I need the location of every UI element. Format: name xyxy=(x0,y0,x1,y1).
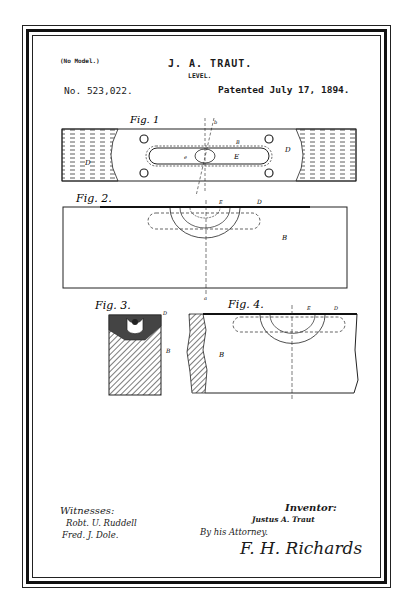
svg-text:B: B xyxy=(235,139,240,145)
witness-signature-2: Fred. J. Dole. xyxy=(62,530,118,540)
patent-drawings: D D E B e b Fig. 1 B D E a Fig. 2. B D F… xyxy=(0,0,415,614)
svg-text:B: B xyxy=(165,347,171,354)
inventor-label: Inventor: xyxy=(285,502,337,513)
fig3-label: Fig. 3. xyxy=(94,299,131,312)
svg-text:B: B xyxy=(281,234,287,242)
svg-text:E: E xyxy=(306,305,311,311)
svg-text:E: E xyxy=(218,199,223,205)
svg-text:D: D xyxy=(333,305,338,311)
svg-text:E: E xyxy=(233,153,239,161)
figure-3: B D xyxy=(109,310,171,395)
svg-text:D: D xyxy=(84,159,91,167)
inventor-signature: Justus A. Traut xyxy=(252,515,315,524)
fig1-label: Fig. 1 xyxy=(129,114,159,125)
by-attorney-label: By his Attorney. xyxy=(200,527,268,537)
fig4-label: Fig. 4. xyxy=(227,298,264,311)
figure-2: B D E a xyxy=(63,198,347,301)
svg-text:b: b xyxy=(214,119,217,125)
figure-4: B D E xyxy=(187,305,358,400)
svg-text:a: a xyxy=(204,295,207,301)
figure-1: D D E B e b xyxy=(62,118,356,196)
svg-text:D: D xyxy=(284,146,291,154)
witness-signature-1: Robt. U. Ruddell xyxy=(66,518,137,528)
svg-text:B: B xyxy=(218,351,224,359)
witnesses-label: Witnesses: xyxy=(60,505,114,516)
svg-text:D: D xyxy=(162,310,167,316)
fig2-label: Fig. 2. xyxy=(75,192,112,205)
attorney-signature: F. H. Richards xyxy=(240,538,362,558)
svg-text:e: e xyxy=(184,154,187,160)
svg-text:D: D xyxy=(256,198,262,205)
